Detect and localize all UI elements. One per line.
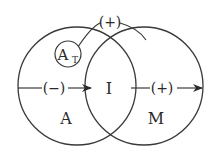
top-arc-sign: (+) — [99, 14, 122, 30]
set-m-circle — [85, 27, 203, 145]
top-arc-right — [120, 23, 146, 40]
subset-label: A — [57, 46, 69, 64]
intersection-label: I — [106, 79, 112, 98]
set-a-label: A — [59, 109, 72, 128]
subset-label-sub: T — [72, 55, 78, 65]
right-arrow-sign: (+) — [151, 80, 174, 96]
left-arrow-sign: (−) — [43, 80, 66, 96]
venn-diagram: (+) A T (−) I (+) A M — [0, 0, 218, 154]
set-m-label: M — [148, 109, 164, 128]
